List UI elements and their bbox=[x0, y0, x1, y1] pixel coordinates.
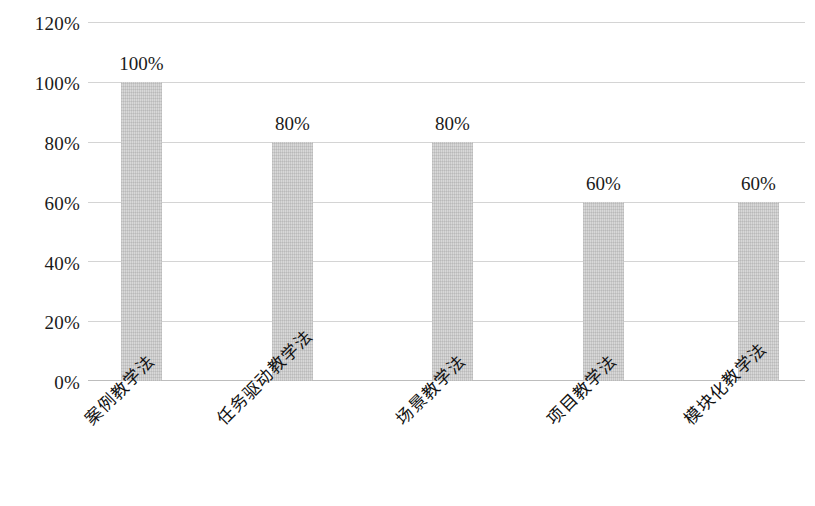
x-tick-label-task-driven: 任务驱动教学法 bbox=[210, 323, 317, 430]
x-axis: 案例教学法 任务驱动教学法 场景教学法 项目教学法 模块化教学法 bbox=[0, 0, 815, 506]
x-tick-label-project-teaching: 项目教学法 bbox=[540, 348, 621, 429]
x-tick-label-modular-teaching: 模块化教学法 bbox=[677, 336, 771, 430]
x-tick-label-case-teaching: 案例教学法 bbox=[78, 348, 159, 429]
x-tick-label-scenario-teaching: 场景教学法 bbox=[389, 348, 470, 429]
bar-chart: 100% 80% 80% 60% 60% 120% 100% 80% 60% 4… bbox=[0, 0, 815, 506]
